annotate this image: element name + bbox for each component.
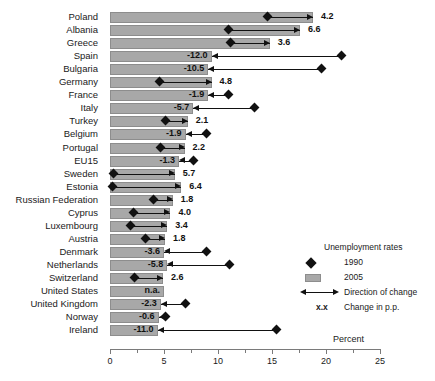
row-label-united-states: United States bbox=[0, 284, 98, 297]
change-value-label: 4.8 bbox=[220, 75, 233, 88]
xx-symbol: x.x bbox=[316, 301, 328, 314]
change-arrow-line bbox=[164, 252, 206, 253]
legend-item-2005: 2005 bbox=[297, 271, 435, 284]
change-arrow-head bbox=[193, 105, 199, 111]
chart-row: EU15-1.3 bbox=[0, 155, 435, 168]
axis-tick bbox=[299, 349, 300, 353]
change-arrow-head bbox=[167, 261, 173, 267]
change-value-label: n.a. bbox=[124, 284, 160, 297]
change-value-label: -1.3 bbox=[139, 154, 175, 167]
change-arrow-head bbox=[264, 40, 270, 46]
change-arrow-head bbox=[307, 14, 313, 20]
marker-1990 bbox=[181, 299, 191, 309]
change-arrow-line bbox=[229, 30, 300, 31]
change-arrow-head bbox=[169, 170, 175, 176]
chart-row: Spain-12.0 bbox=[0, 50, 435, 63]
change-value-label: 2.2 bbox=[193, 141, 206, 154]
legend-title: Unemployment rates bbox=[324, 242, 402, 252]
marker-1990 bbox=[201, 129, 211, 139]
row-label-denmark: Denmark bbox=[0, 245, 98, 258]
axis-tick-label: 15 bbox=[267, 356, 277, 367]
change-arrow-line bbox=[158, 330, 277, 331]
row-label-estonia: Estonia bbox=[0, 180, 98, 193]
change-arrow-head bbox=[157, 275, 163, 281]
change-value-label: -12.0 bbox=[172, 49, 208, 62]
legend-item-label: 1990 bbox=[344, 256, 363, 269]
change-value-label: 6.4 bbox=[189, 180, 202, 193]
row-label-sweden: Sweden bbox=[0, 167, 98, 180]
row-label-russian-federation: Russian Federation bbox=[0, 193, 98, 206]
change-value-label: -5.8 bbox=[127, 258, 163, 271]
arrow-head-right-icon bbox=[333, 289, 339, 295]
chart-row: Bulgaria-10.5 bbox=[0, 63, 435, 76]
change-arrow-head bbox=[208, 66, 214, 72]
row-label-bulgaria: Bulgaria bbox=[0, 62, 98, 75]
change-value-label: 3.6 bbox=[278, 36, 291, 49]
change-arrow-head bbox=[164, 248, 170, 254]
row-label-belgium: Belgium bbox=[0, 127, 98, 140]
row-label-luxembourg: Luxembourg bbox=[0, 219, 98, 232]
row-label-albania: Albania bbox=[0, 23, 98, 36]
change-value-label: 2.6 bbox=[171, 271, 184, 284]
row-label-portugal: Portugal bbox=[0, 141, 98, 154]
chart-row: Germany4.8 bbox=[0, 76, 435, 89]
legend-item-label: Direction of change bbox=[344, 286, 417, 299]
change-arrow-head bbox=[164, 209, 170, 215]
chart-row: Luxembourg3.4 bbox=[0, 220, 435, 233]
row-label-netherlands: Netherlands bbox=[0, 258, 98, 271]
marker-1990 bbox=[317, 64, 327, 74]
axis-tick bbox=[353, 349, 354, 353]
change-value-label: -5.7 bbox=[153, 101, 189, 114]
change-value-label: 4.2 bbox=[321, 10, 334, 23]
change-value-label: 1.8 bbox=[181, 193, 194, 206]
marker-1990 bbox=[201, 246, 211, 256]
diamond-icon bbox=[305, 257, 316, 268]
marker-1990 bbox=[224, 90, 234, 100]
chart-row: Cyprus4.0 bbox=[0, 207, 435, 220]
arrow-head-left-icon bbox=[300, 289, 306, 295]
legend-item-change: x.x Change in p.p. bbox=[297, 301, 435, 314]
row-label-united-kingdom: United Kingdom bbox=[0, 297, 98, 310]
row-label-france: France bbox=[0, 88, 98, 101]
bar-swatch-icon bbox=[305, 274, 321, 282]
change-arrow-head bbox=[167, 196, 173, 202]
axis-tick-label: 20 bbox=[321, 356, 331, 367]
x-axis-unit-label: Percent bbox=[333, 334, 364, 344]
legend-item-direction: Direction of change bbox=[297, 286, 435, 299]
change-value-label: -0.6 bbox=[119, 310, 155, 323]
marker-1990 bbox=[336, 51, 346, 61]
change-arrow-line bbox=[167, 265, 230, 266]
change-value-label: -1.9 bbox=[168, 88, 204, 101]
chart-row: Estonia6.4 bbox=[0, 181, 435, 194]
unemployment-change-chart: Poland4.2Albania6.6Greece3.6Spain-12.0Bu… bbox=[0, 0, 435, 381]
row-label-eu15: EU15 bbox=[0, 154, 98, 167]
axis-tick bbox=[380, 349, 381, 354]
legend-item-label: Change in p.p. bbox=[344, 301, 399, 314]
chart-row: Italy-5.7 bbox=[0, 102, 435, 115]
change-arrow-head bbox=[179, 157, 185, 163]
marker-1990 bbox=[225, 259, 235, 269]
change-value-label: -11.0 bbox=[118, 323, 154, 336]
row-label-cyprus: Cyprus bbox=[0, 206, 98, 219]
chart-legend: Unemployment rates 1990 2005 Direction o… bbox=[297, 242, 435, 308]
row-label-greece: Greece bbox=[0, 36, 98, 49]
change-arrow-head bbox=[179, 144, 185, 150]
change-value-label: 2.1 bbox=[196, 114, 209, 127]
axis-tick bbox=[326, 349, 327, 354]
chart-row: Sweden5.7 bbox=[0, 168, 435, 181]
row-label-norway: Norway bbox=[0, 310, 98, 323]
axis-tick bbox=[218, 349, 219, 354]
change-arrow-line bbox=[208, 69, 321, 70]
axis-tick bbox=[110, 349, 111, 354]
axis-tick bbox=[164, 349, 165, 354]
chart-row: Russian Federation1.8 bbox=[0, 194, 435, 207]
change-arrow-head bbox=[294, 27, 300, 33]
change-arrow-line bbox=[113, 174, 175, 175]
change-value-label: -1.9 bbox=[146, 127, 182, 140]
change-arrow-line bbox=[160, 82, 212, 83]
chart-row: Belgium-1.9 bbox=[0, 128, 435, 141]
row-label-italy: Italy bbox=[0, 101, 98, 114]
change-value-label: -10.5 bbox=[168, 62, 204, 75]
chart-row: France-1.9 bbox=[0, 89, 435, 102]
change-arrow-line bbox=[112, 187, 181, 188]
